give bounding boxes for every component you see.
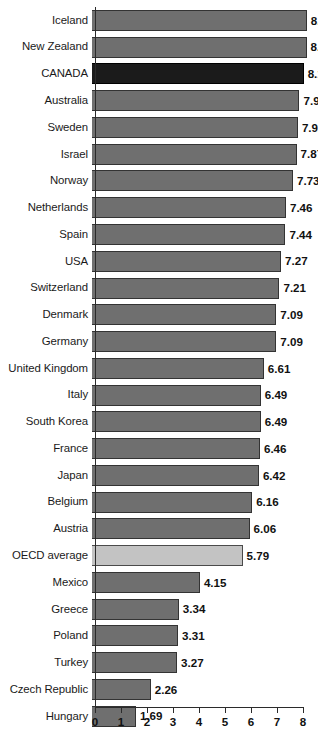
- bar-zone: 6.16: [92, 489, 318, 516]
- bar-zone: 6.46: [92, 435, 318, 462]
- bar-chart: Iceland8.26New Zealand8.25CANADA8.14Aust…: [0, 0, 318, 742]
- x-axis-tick-label: 1: [118, 716, 124, 728]
- bar-row: Czech Republic2.26: [0, 676, 318, 703]
- bar: [92, 304, 276, 325]
- category-label: New Zealand: [0, 34, 92, 61]
- bar: [92, 492, 252, 513]
- bar: [92, 144, 297, 165]
- bar: [92, 251, 281, 272]
- x-axis-tick: [121, 707, 122, 713]
- bar-row: Italy6.49: [0, 382, 318, 409]
- bar-row: Austria6.06: [0, 516, 318, 543]
- plot-area: Iceland8.26New Zealand8.25CANADA8.14Aust…: [0, 7, 318, 707]
- bar-zone: 3.27: [92, 649, 318, 676]
- bar-row: OECD average5.79: [0, 542, 318, 569]
- category-label: Denmark: [0, 301, 92, 328]
- x-axis-tick-label: 6: [248, 716, 254, 728]
- x-axis-tick: [225, 707, 226, 713]
- category-label: United Kingdom: [0, 355, 92, 382]
- y-axis-line: [95, 7, 96, 707]
- bar-zone: 7.44: [92, 221, 318, 248]
- bar-value-label: 6.61: [268, 363, 291, 375]
- bar: [92, 358, 264, 379]
- bar-zone: 2.26: [92, 676, 318, 703]
- bar-row: Switzerland7.21: [0, 275, 318, 302]
- category-label: Belgium: [0, 489, 92, 516]
- bar: [92, 706, 136, 727]
- bar: [92, 90, 299, 111]
- bar-value-label: 7.21: [283, 282, 306, 294]
- x-axis-tick-label: 5: [222, 716, 228, 728]
- category-label: Austria: [0, 516, 92, 543]
- bar-zone: 6.61: [92, 355, 318, 382]
- bar: [92, 170, 293, 191]
- x-axis-tick: [95, 707, 96, 713]
- bar-row: South Korea6.49: [0, 408, 318, 435]
- category-label: Greece: [0, 596, 92, 623]
- category-label: Turkey: [0, 649, 92, 676]
- bar-zone: 7.98: [92, 87, 318, 114]
- bar-row: CANADA8.14: [0, 61, 318, 88]
- bar-zone: 8.14: [92, 61, 318, 88]
- bar: [92, 117, 298, 138]
- bar: [92, 572, 200, 593]
- bar-value-label: 7.92: [302, 122, 318, 134]
- bar-value-label: 6.49: [265, 416, 288, 428]
- bar-zone: 5.79: [92, 542, 318, 569]
- bar: [92, 63, 304, 84]
- bar-row: Greece3.34: [0, 596, 318, 623]
- category-label: Norway: [0, 168, 92, 195]
- x-axis-tick-label: 7: [274, 716, 280, 728]
- category-label: Iceland: [0, 7, 92, 34]
- bar-zone: 7.92: [92, 114, 318, 141]
- bar-value-label: 3.34: [183, 603, 206, 615]
- x-axis-tick-label: 0: [92, 716, 98, 728]
- bar-value-label: 8.26: [311, 15, 318, 27]
- bar: [92, 224, 285, 245]
- bar-row: Japan6.42: [0, 462, 318, 489]
- x-axis-tick: [251, 707, 252, 713]
- bar-value-label: 3.27: [181, 657, 204, 669]
- bar-value-label: 8.14: [308, 68, 318, 80]
- category-label: France: [0, 435, 92, 462]
- category-label: USA: [0, 248, 92, 275]
- bar-zone: 7.09: [92, 301, 318, 328]
- bar: [92, 10, 307, 31]
- bar-zone: 6.49: [92, 408, 318, 435]
- bar-row: New Zealand8.25: [0, 34, 318, 61]
- bar-row: France6.46: [0, 435, 318, 462]
- bar: [92, 438, 260, 459]
- bar-value-label: 6.42: [263, 470, 286, 482]
- category-label: Israel: [0, 141, 92, 168]
- x-axis-tick: [147, 707, 148, 713]
- bar: [92, 518, 250, 539]
- bar-row: USA7.27: [0, 248, 318, 275]
- x-axis-tick: [173, 707, 174, 713]
- bar: [92, 331, 276, 352]
- bar-value-label: 4.15: [204, 577, 227, 589]
- bar-zone: 6.42: [92, 462, 318, 489]
- bar-row: Israel7.87: [0, 141, 318, 168]
- bar-value-label: 6.49: [265, 389, 288, 401]
- x-axis-tick-label: 2: [144, 716, 150, 728]
- x-axis-tick-label: 8: [300, 716, 306, 728]
- category-label: Spain: [0, 221, 92, 248]
- bar-value-label: 7.46: [290, 202, 313, 214]
- bar-row: Iceland8.26: [0, 7, 318, 34]
- category-label: CANADA: [0, 61, 92, 88]
- bar-row: Spain7.44: [0, 221, 318, 248]
- bar: [92, 385, 261, 406]
- bar-value-label: 8.25: [311, 41, 319, 53]
- x-axis-tick: [277, 707, 278, 713]
- bar-value-label: 7.98: [303, 95, 318, 107]
- category-label: Germany: [0, 328, 92, 355]
- bar-value-label: 7.87: [301, 148, 318, 160]
- bar-value-label: 7.09: [280, 309, 303, 321]
- bar-row: Belgium6.16: [0, 489, 318, 516]
- category-label: Japan: [0, 462, 92, 489]
- bar-value-label: 3.31: [182, 630, 205, 642]
- category-label: Hungary: [0, 703, 92, 730]
- bar-row: Turkey3.27: [0, 649, 318, 676]
- bar-zone: 3.31: [92, 623, 318, 650]
- bar-value-label: 2.26: [155, 684, 178, 696]
